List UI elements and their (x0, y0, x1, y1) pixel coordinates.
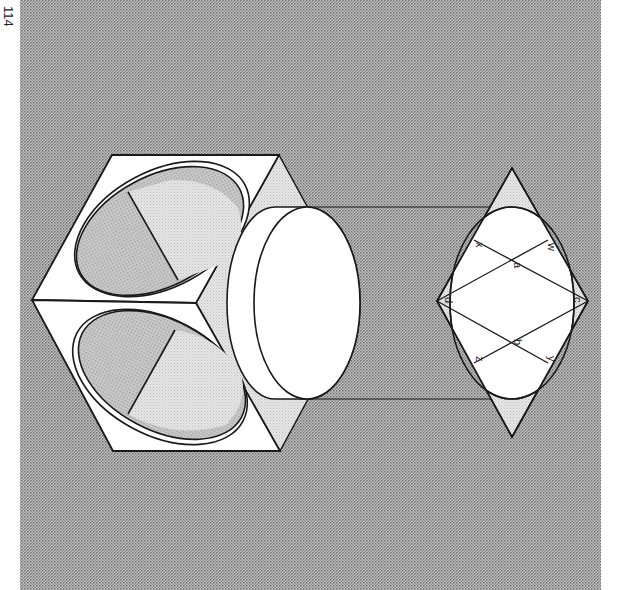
cylinder (227, 207, 360, 399)
label-a: a (512, 262, 524, 269)
label-x: x (474, 242, 486, 248)
label-z: z (474, 356, 486, 362)
technical-drawing: x w a d c b z y (0, 0, 621, 590)
cylinder-front-face (254, 207, 360, 399)
label-b: b (512, 339, 524, 345)
label-y: y (546, 356, 558, 362)
label-c: c (572, 297, 584, 303)
label-d: d (443, 297, 455, 303)
label-w: w (546, 242, 558, 251)
